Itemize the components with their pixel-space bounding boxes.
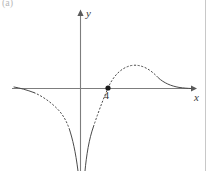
right-branch-solid-tail xyxy=(159,78,192,89)
y-axis-arrowhead xyxy=(77,10,83,17)
curve-left-branch xyxy=(14,87,78,171)
x-intercept-label: 4 xyxy=(104,91,109,101)
left-branch-solid-tail xyxy=(70,130,79,172)
right-branch-solid-head xyxy=(85,127,94,172)
left-branch-dashed xyxy=(34,93,70,130)
x-axis-label: x xyxy=(194,92,199,103)
y-axis-label: y xyxy=(86,8,91,19)
coordinate-plot xyxy=(0,0,210,171)
left-branch-solid-head xyxy=(14,87,34,93)
graph-figure: (a) y x 4 xyxy=(0,0,210,171)
curve-right-branch xyxy=(85,65,191,171)
